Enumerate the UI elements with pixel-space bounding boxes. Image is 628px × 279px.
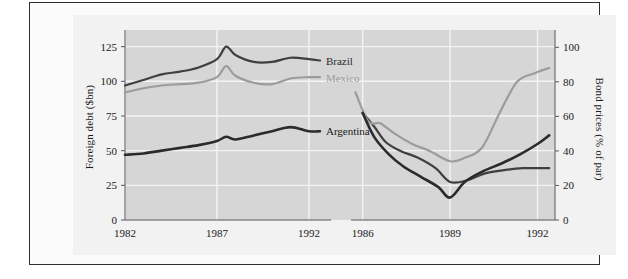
right-ytick-label: 60 — [563, 110, 575, 122]
figure-root: Foreign debt ($bn) Bond prices (% of par… — [0, 0, 628, 279]
chart-canvas: 0255075100125 020406080100 198219871992 … — [73, 15, 616, 255]
series-label-brazil: Brazil — [326, 55, 353, 67]
right-xtick-label: 1992 — [527, 227, 549, 239]
left-ytick-label: 100 — [101, 75, 118, 87]
right-xtick-label: 1989 — [439, 227, 462, 239]
series-label-argentina: Argentina — [326, 125, 370, 137]
left-ytick-label: 75 — [106, 110, 118, 122]
series-label-mexico: Mexico — [326, 72, 360, 84]
right-ytick-label: 20 — [563, 179, 575, 191]
left-xtick-label: 1992 — [298, 227, 320, 239]
right-ytick-label: 100 — [563, 41, 580, 53]
left-xtick-label: 1982 — [114, 227, 136, 239]
left-panel-x-ticks: 198219871992 — [114, 227, 320, 239]
left-ytick-label: 0 — [112, 214, 118, 226]
right-xtick-label: 1986 — [352, 227, 375, 239]
left-axis-ticks: 0255075100125 — [101, 41, 126, 226]
right-axis-ticks: 020406080100 — [555, 41, 580, 226]
right-ytick-label: 40 — [563, 145, 575, 157]
left-ytick-label: 50 — [106, 145, 118, 157]
plot-pane: Foreign debt ($bn) Bond prices (% of par… — [73, 15, 616, 255]
left-xtick-label: 1987 — [206, 227, 229, 239]
right-ytick-label: 0 — [563, 214, 569, 226]
left-ytick-label: 25 — [106, 179, 118, 191]
left-ytick-label: 125 — [101, 41, 118, 53]
right-ytick-label: 80 — [563, 76, 575, 88]
right-panel-x-ticks: 198619891992 — [352, 227, 549, 239]
figure-frame: Foreign debt ($bn) Bond prices (% of par… — [29, 2, 600, 265]
